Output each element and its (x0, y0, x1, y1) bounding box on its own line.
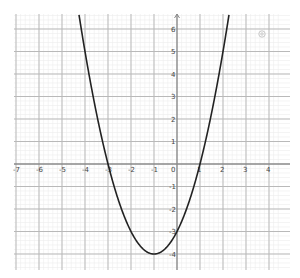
y-tick-label: 6 (171, 26, 176, 34)
y-tick-label: -4 (169, 251, 177, 259)
y-tick-label: 5 (171, 48, 175, 56)
y-tick-label: 1 (171, 138, 175, 146)
x-tick-label: -6 (36, 166, 44, 174)
y-tick-label: 2 (171, 116, 175, 124)
y-tick-label: -1 (169, 183, 176, 191)
x-tick-label: 3 (243, 166, 247, 174)
x-tick-label: 0 (171, 166, 175, 174)
y-tick-label: 4 (171, 71, 176, 79)
y-tick-label: -2 (169, 206, 176, 214)
x-tick-label: 2 (220, 166, 224, 174)
x-tick-label: -4 (82, 166, 90, 174)
x-tick-label: -1 (151, 166, 158, 174)
y-tick-label: 3 (171, 93, 175, 101)
x-tick-label: -5 (59, 166, 66, 174)
x-tick-label: -7 (13, 166, 20, 174)
major-grid (14, 14, 290, 270)
x-tick-label: -2 (128, 166, 135, 174)
function-graph[interactable]: -7-6-5-4-3-2-101234 654321-1-2-3-4 (0, 0, 300, 278)
x-tick-label: 4 (266, 166, 271, 174)
